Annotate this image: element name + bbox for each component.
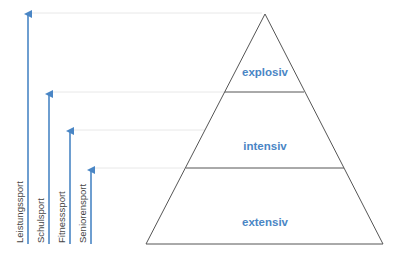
level-explosiv: explosiv bbox=[242, 66, 289, 78]
level-extensiv: extensiv bbox=[242, 216, 289, 228]
level-intensiv: intensiv bbox=[243, 140, 287, 152]
label-fitnesssport: Fitnesssport bbox=[56, 191, 67, 243]
pyramid-diagram: explosiv intensiv extensiv Leistungsspor… bbox=[0, 0, 396, 261]
guide-lines bbox=[32, 13, 262, 168]
label-seniorensport: Seniorensport bbox=[77, 183, 88, 243]
pyramid-outline bbox=[146, 14, 383, 244]
label-leistungssport: Leistungssport bbox=[14, 181, 25, 243]
label-schulsport: Schulsport bbox=[35, 198, 46, 243]
pyramid bbox=[146, 14, 383, 244]
